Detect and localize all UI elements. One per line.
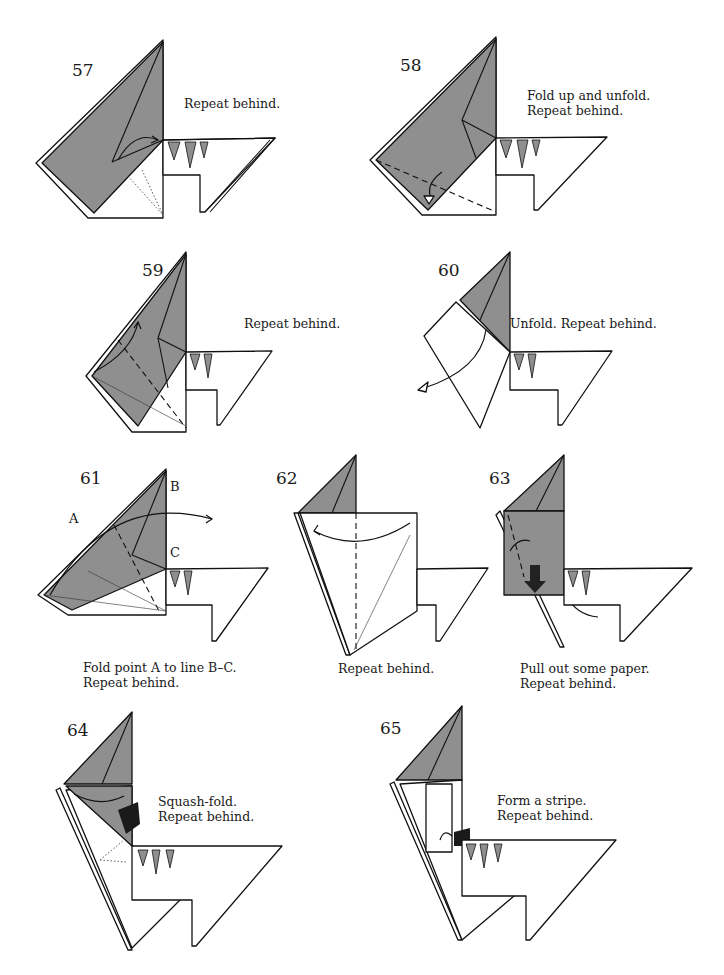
fold-diagram-61 (0, 445, 260, 695)
step-62: 62 Repeat behind. (260, 445, 480, 695)
step-57: 57 Repeat behind. (0, 0, 362, 230)
fold-diagram-62 (260, 445, 480, 695)
fold-diagram-57 (0, 0, 362, 230)
fold-diagram-60 (400, 240, 724, 440)
step-61: 61 A B C Fold point A to line B–C. Repea… (0, 445, 260, 695)
step-64: 64 Squash-fold. Repeat behind. (0, 700, 362, 975)
step-58: 58 Fold up and unfold. Repeat behind. (362, 0, 724, 230)
fool-diagram-63 (480, 445, 724, 695)
step-60: 60 Unfold. Repeat behind. (400, 240, 724, 440)
step-59: 59 Repeat behind. (60, 240, 360, 440)
fold-diagram-64 (0, 700, 362, 975)
step-63: 63 Pull out some paper. Repeat behind. (480, 445, 724, 695)
fold-diagram-59 (60, 240, 360, 440)
fold-diagram-65 (362, 700, 724, 975)
step-65: 65 Form a stripe. Repeat behind. (362, 700, 724, 975)
fold-diagram-58 (362, 0, 724, 230)
